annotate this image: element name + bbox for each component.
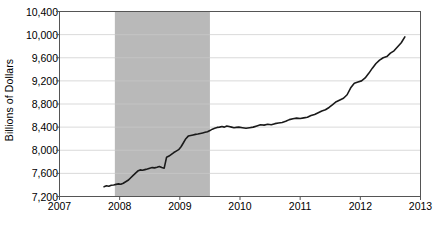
axis-ticks	[56, 12, 421, 201]
chart-container: Billions of Dollars 7,2007,6008,0008,400…	[0, 0, 442, 231]
plot-area	[0, 0, 442, 231]
gridlines	[60, 12, 421, 174]
